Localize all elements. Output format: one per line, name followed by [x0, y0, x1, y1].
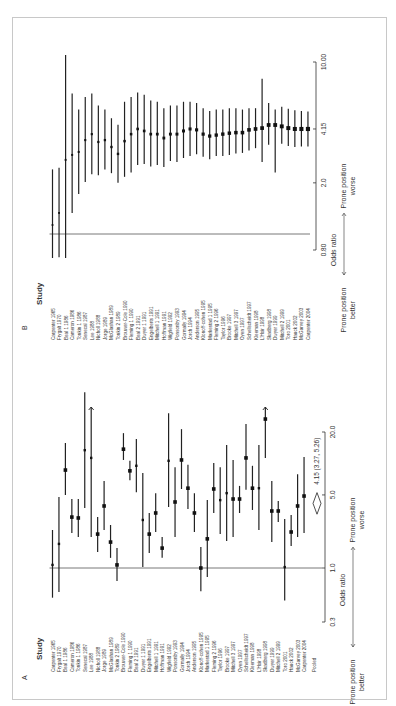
study-label: Taylor 1996: [221, 316, 226, 340]
point-estimate: [175, 133, 178, 136]
point-estimate: [52, 224, 54, 226]
study-label: Mitchell 3 1997: [234, 309, 239, 340]
point-estimate: [193, 511, 197, 515]
tick-label: 20.0: [329, 425, 336, 438]
point-estimate: [286, 126, 290, 130]
point-estimate: [251, 486, 255, 490]
pooled-estimate-label: 4.15 (3.27, 5.26): [313, 438, 321, 485]
point-estimate: [84, 139, 86, 141]
point-estimate: [51, 564, 53, 566]
study-label: Mitchell 1 1991: [154, 641, 159, 672]
point-estimate: [167, 460, 169, 462]
study-label: L'Hoir 1998: [260, 316, 265, 340]
study-label: Fleming 2 1996: [214, 308, 219, 340]
point-estimate: [96, 532, 100, 536]
study-label: Klonoff-cohen 1995: [201, 300, 206, 340]
point-estimate: [306, 127, 310, 131]
study-label: Tonkin 1 1986: [76, 643, 81, 672]
point-estimate: [212, 487, 216, 491]
study-label: Oyen 1997: [238, 649, 243, 672]
study-label: Dwyer 1 1991: [141, 643, 146, 672]
study-label-pooled: Pooled: [312, 657, 317, 672]
point-estimate: [65, 159, 67, 161]
study-label: McGlashan 1989: [109, 305, 114, 340]
study-header: Study: [35, 637, 44, 660]
study-label: Gormally 1994: [180, 642, 185, 672]
worse-label: worse: [349, 177, 356, 197]
point-estimate: [276, 509, 280, 513]
study-label: Ponsonby 1993: [173, 640, 178, 672]
study-label: Dwyer 1999: [270, 647, 275, 672]
point-estimate: [173, 500, 177, 504]
point-estimate: [58, 212, 60, 214]
study-label: Brooke 1997: [225, 646, 230, 672]
study-label: Brouwer-Cole 1990: [121, 632, 126, 672]
study-label: Fleming 1 1990: [128, 640, 133, 672]
study-label: Jorch 1994: [188, 317, 193, 340]
study-label: Fleming 1 1990: [129, 308, 134, 340]
point-estimate: [225, 492, 227, 494]
point-estimate: [156, 133, 159, 136]
worse-label: Prone position: [349, 498, 357, 543]
point-estimate: [258, 487, 260, 489]
study-label: Nicholl 1988: [96, 314, 101, 340]
point-estimate: [147, 532, 151, 536]
tick-label: 2.0: [320, 178, 327, 187]
point-estimate: [199, 566, 203, 570]
study-label: Anderson 1995: [195, 308, 200, 340]
point-estimate: [182, 129, 185, 132]
study-label: Gormally 1994: [182, 310, 187, 340]
better-label: better: [349, 300, 356, 319]
point-estimate: [90, 457, 92, 459]
study-label: Tonkin 2 1989: [116, 311, 121, 340]
study-label: McGlashan 1989: [109, 637, 114, 672]
point-estimate: [123, 140, 125, 142]
point-estimate: [169, 133, 172, 136]
study-label: Tonkin 1 1986: [77, 311, 82, 340]
panel-label: A: [21, 675, 28, 680]
study-label: Hauck 2002: [289, 647, 294, 672]
point-estimate: [206, 537, 210, 541]
study-label: Frygalt 1970: [57, 646, 62, 672]
point-estimate: [280, 124, 284, 128]
study-label: Hoffman 1991: [162, 311, 167, 340]
study-label: Frygalt 1970: [57, 314, 62, 340]
point-estimate: [110, 146, 112, 148]
pooled-diamond: [313, 493, 321, 515]
point-estimate: [260, 126, 264, 130]
point-estimate: [264, 417, 268, 421]
study-label: Tonkin 2 1989: [115, 643, 120, 672]
axis-title: Odds ratio: [330, 234, 337, 266]
point-estimate: [71, 154, 73, 156]
point-estimate: [136, 128, 139, 131]
point-estimate: [244, 456, 248, 460]
study-label: Kleeman 1998: [254, 310, 259, 340]
study-label: Jorge 1989: [102, 649, 107, 672]
study-label: Toro 2001: [283, 651, 288, 672]
better-label: Prone position: [340, 288, 348, 333]
point-estimate: [241, 131, 245, 135]
panel-b: [50, 55, 347, 275]
study-label: Cameron 1986: [70, 309, 75, 340]
worse-label: Prone position: [340, 164, 348, 209]
point-estimate: [102, 504, 106, 508]
point-estimate: [270, 509, 274, 513]
point-estimate: [284, 566, 286, 568]
study-label: Carpenter 2004: [306, 308, 311, 340]
tick-label: 1.0: [329, 563, 336, 572]
study-label: Engelberts 1991: [147, 638, 152, 672]
study-label: Senecal 1987: [83, 643, 88, 672]
study-label: Beal 2 1991: [134, 647, 139, 672]
study-label: Oyen 1997: [240, 317, 245, 340]
point-estimate: [149, 133, 152, 136]
study-label: Brouwer-Cole 1990: [123, 300, 128, 340]
study-label: Ponsonby 1993: [175, 308, 180, 340]
point-estimate: [77, 516, 81, 520]
point-estimate: [58, 543, 60, 545]
point-estimate: [128, 469, 132, 473]
study-label: McGarvey 2003: [299, 307, 304, 340]
study-label: Jorge 1989: [103, 317, 108, 340]
point-estimate: [289, 530, 293, 534]
point-estimate: [228, 131, 231, 134]
point-estimate: [296, 504, 300, 508]
